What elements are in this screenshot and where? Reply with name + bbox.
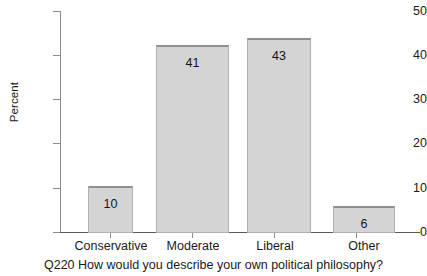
y-tick-mark xyxy=(53,188,60,189)
bar-other: 6 xyxy=(333,206,395,233)
x-axis-title: Q220 How would you describe your own pol… xyxy=(0,258,427,272)
bar-value-label: 10 xyxy=(89,197,132,211)
bar-conservative: 10 xyxy=(88,186,133,233)
y-tick-label: 10 xyxy=(381,181,427,195)
y-tick-mark xyxy=(53,55,60,56)
y-tick-mark xyxy=(53,143,60,144)
x-category-label-liberal: Liberal xyxy=(235,239,315,253)
bar-value-label: 41 xyxy=(157,56,228,70)
y-axis-line xyxy=(60,11,61,232)
y-tick-label: 50 xyxy=(381,4,427,18)
bar-chart: Percent 50 40 30 20 10 0 10 41 43 6 Cons… xyxy=(0,0,427,276)
bar-liberal: 43 xyxy=(247,38,311,233)
y-tick-mark xyxy=(53,232,60,233)
x-category-label-conservative: Conservative xyxy=(69,239,153,253)
y-tick-label: 30 xyxy=(381,92,427,106)
y-tick-mark xyxy=(53,99,60,100)
y-tick-label: 20 xyxy=(381,136,427,150)
y-tick-label: 40 xyxy=(381,48,427,62)
y-tick-mark xyxy=(53,11,60,12)
bar-value-label: 6 xyxy=(334,217,394,231)
y-axis-title: Percent xyxy=(8,62,20,142)
bar-moderate: 41 xyxy=(156,45,229,233)
bar-value-label: 43 xyxy=(248,49,310,63)
x-category-label-other: Other xyxy=(324,239,404,253)
x-category-label-moderate: Moderate xyxy=(151,239,235,253)
